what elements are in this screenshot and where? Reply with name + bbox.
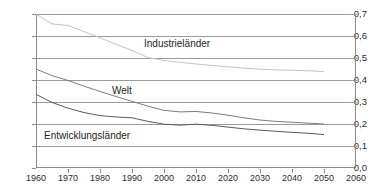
x-tick-label: 2010: [179, 174, 213, 183]
series-label: Welt: [112, 86, 132, 96]
x-tick-label: 2040: [275, 174, 309, 183]
y-tickmark: [32, 14, 36, 15]
x-tick-label: 1990: [115, 174, 149, 183]
y-tickmark: [32, 80, 36, 81]
y-tickmark: [32, 58, 36, 59]
x-tick-label: 1980: [83, 174, 117, 183]
x-tickmark: [260, 169, 261, 173]
x-tickmark: [324, 169, 325, 173]
x-tick-label: 2030: [243, 174, 277, 183]
x-tick-label: 2060: [339, 174, 372, 183]
series-line-2: [36, 94, 324, 134]
x-tickmark: [196, 169, 197, 173]
x-tickmark: [68, 169, 69, 173]
series-label: Entwicklungsländer: [44, 131, 130, 141]
x-tickmark: [100, 169, 101, 173]
y-tickmark: [32, 168, 36, 169]
y-tickmark: [32, 36, 36, 37]
y-tickmark: [32, 102, 36, 103]
y-tickmark: [32, 146, 36, 147]
x-tickmark: [132, 169, 133, 173]
x-tickmark: [228, 169, 229, 173]
x-tickmark: [164, 169, 165, 173]
y-tickmark: [32, 124, 36, 125]
x-tick-label: 1960: [19, 174, 53, 183]
x-tick-label: 2000: [147, 174, 181, 183]
series-label: Industrieländer: [144, 39, 210, 49]
x-tickmark: [292, 169, 293, 173]
x-tick-label: 1970: [51, 174, 85, 183]
x-tick-label: 2020: [211, 174, 245, 183]
x-tick-label: 2050: [307, 174, 341, 183]
series-line-1: [36, 69, 324, 124]
